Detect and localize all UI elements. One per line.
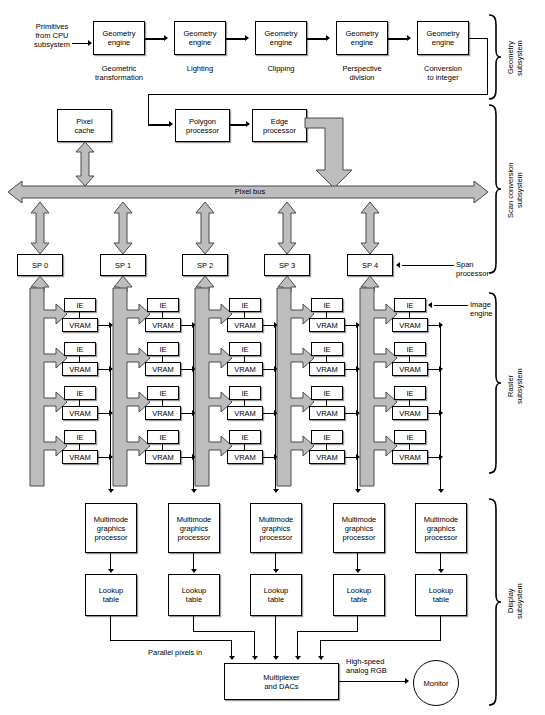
- ie-box-4-2[interactable]: IE: [394, 386, 426, 400]
- ie-vram-link-2-3: [244, 444, 245, 450]
- vram-box-2-3[interactable]: VRAM: [227, 450, 263, 464]
- vram-box-1-1[interactable]: VRAM: [145, 362, 181, 376]
- vram-box-1-0[interactable]: VRAM: [145, 318, 181, 332]
- ie-box-1-3[interactable]: IE: [147, 430, 179, 444]
- lut-route-v-3: [357, 616, 358, 632]
- input-label: Primitivesfrom CPUsubsystem: [16, 22, 88, 49]
- pixel-bus-label: Pixel bus: [200, 187, 300, 196]
- multimode-graphics-processor-box-4[interactable]: Multimodegraphicsprocessor: [415, 503, 467, 553]
- vram-box-2-0[interactable]: VRAM: [227, 318, 263, 332]
- ie-vram-link-2-0: [244, 312, 245, 318]
- ie-box-0-3[interactable]: IE: [64, 430, 96, 444]
- edge-processor-box[interactable]: Edgeprocessor: [252, 109, 307, 142]
- multiplexer-dacs-box[interactable]: Multiplexerand DACs: [224, 663, 339, 700]
- vram-box-4-2[interactable]: VRAM: [392, 406, 428, 420]
- ie-box-3-1[interactable]: IE: [311, 342, 343, 356]
- mgp-to-lut-head-4: [438, 569, 444, 573]
- geometry-engine-box-2[interactable]: Geometryengine: [255, 21, 307, 55]
- ie-box-0-1[interactable]: IE: [64, 342, 96, 356]
- lut-route-h-3: [297, 631, 358, 632]
- ie-box-2-3[interactable]: IE: [229, 430, 261, 444]
- geometry-engine-box-1[interactable]: Geometryengine: [174, 21, 226, 55]
- multimode-graphics-processor-box-0[interactable]: Multimodegraphicsprocessor: [85, 503, 137, 553]
- ie-box-0-0[interactable]: IE: [64, 298, 96, 312]
- span-processor-box-0[interactable]: SP 0: [17, 254, 63, 276]
- vram-box-3-2[interactable]: VRAM: [309, 406, 345, 420]
- ie-box-1-2[interactable]: IE: [147, 386, 179, 400]
- ie-box-3-0[interactable]: IE: [311, 298, 343, 312]
- geometry-engine-box-3[interactable]: Geometryengine: [336, 21, 388, 55]
- raster-collector-head-2: [273, 489, 279, 493]
- vram-box-4-1[interactable]: VRAM: [392, 362, 428, 376]
- lut-route-v-4: [440, 616, 441, 641]
- geometry-engine-box-4[interactable]: Geometryengine: [417, 21, 469, 55]
- vram-box-1-2[interactable]: VRAM: [145, 406, 181, 420]
- vram-box-0-2[interactable]: VRAM: [62, 406, 98, 420]
- raster-collector-head-3: [355, 489, 361, 493]
- ie-box-0-2[interactable]: IE: [64, 386, 96, 400]
- ie-vram-link-3-1: [326, 356, 327, 362]
- ie-vram-link-0-2: [79, 400, 80, 406]
- lut-route-down-1: [254, 631, 255, 658]
- input-arrow-line: [72, 43, 89, 44]
- raster-collector-head-0: [108, 489, 114, 493]
- ie-vram-link-1-0: [162, 312, 163, 318]
- lut-route-v-1: [193, 616, 194, 632]
- vram-box-4-3[interactable]: VRAM: [392, 450, 428, 464]
- vram-box-2-2[interactable]: VRAM: [227, 406, 263, 420]
- multimode-graphics-processor-box-3[interactable]: Multimodegraphicsprocessor: [333, 503, 385, 553]
- ie-vram-link-3-2: [326, 400, 327, 406]
- ie-box-4-3[interactable]: IE: [394, 430, 426, 444]
- bus-to-sp-gray-arrow-1: [113, 202, 133, 254]
- ie-box-3-3[interactable]: IE: [311, 430, 343, 444]
- geometry-link-head-1: [245, 35, 249, 41]
- bus-to-sp-gray-arrow-3: [277, 202, 297, 254]
- lookup-table-box-0[interactable]: Lookuptable: [85, 574, 137, 616]
- vram-box-3-0[interactable]: VRAM: [309, 318, 345, 332]
- ie-box-4-0[interactable]: IE: [394, 298, 426, 312]
- geometry-engine-box-0[interactable]: Geometryengine: [93, 21, 145, 55]
- vram-box-0-0[interactable]: VRAM: [62, 318, 98, 332]
- vram-box-3-1[interactable]: VRAM: [309, 362, 345, 376]
- lookup-table-box-4[interactable]: Lookuptable: [415, 574, 467, 616]
- ie-box-1-1[interactable]: IE: [147, 342, 179, 356]
- geometry-caption-2: Clipping: [245, 64, 317, 73]
- image-engine-callout-head: [428, 302, 432, 308]
- span-processor-box-2[interactable]: SP 2: [182, 254, 228, 276]
- span-processor-box-4[interactable]: SP 4: [347, 254, 393, 276]
- ie-box-3-2[interactable]: IE: [311, 386, 343, 400]
- input-arrow-head: [88, 40, 92, 46]
- vram-box-4-0[interactable]: VRAM: [392, 318, 428, 332]
- pixel-cache-box[interactable]: Pixelcache: [57, 109, 112, 142]
- ie-box-2-2[interactable]: IE: [229, 386, 261, 400]
- monitor-node[interactable]: Monitor: [413, 660, 459, 706]
- mux-to-monitor-head: [405, 678, 409, 684]
- ie-box-2-0[interactable]: IE: [229, 298, 261, 312]
- ie-box-2-1[interactable]: IE: [229, 342, 261, 356]
- feedback-line-into-polygon: [148, 124, 170, 126]
- lut-route-head-2: [273, 656, 279, 660]
- lut-route-head-4: [318, 656, 324, 660]
- vram-box-1-3[interactable]: VRAM: [145, 450, 181, 464]
- bus-to-sp-gray-arrow-2: [195, 202, 215, 254]
- span-processor-box-1[interactable]: SP 1: [100, 254, 146, 276]
- multimode-graphics-processor-box-2[interactable]: Multimodegraphicsprocessor: [250, 503, 302, 553]
- lookup-table-box-1[interactable]: Lookuptable: [168, 574, 220, 616]
- mux-to-monitor-line: [339, 681, 406, 682]
- vram-box-0-1[interactable]: VRAM: [62, 362, 98, 376]
- ie-vram-link-2-2: [244, 400, 245, 406]
- lookup-table-box-3[interactable]: Lookuptable: [333, 574, 385, 616]
- vram-box-0-3[interactable]: VRAM: [62, 450, 98, 464]
- span-processor-box-3[interactable]: SP 3: [264, 254, 310, 276]
- lut-route-head-3: [295, 656, 301, 660]
- lookup-table-box-2[interactable]: Lookuptable: [250, 574, 302, 616]
- ie-box-4-1[interactable]: IE: [394, 342, 426, 356]
- polygon-processor-box[interactable]: Polygonprocessor: [175, 109, 230, 142]
- vram-box-2-1[interactable]: VRAM: [227, 362, 263, 376]
- vram-box-3-3[interactable]: VRAM: [309, 450, 345, 464]
- multimode-graphics-processor-box-1[interactable]: Multimodegraphicsprocessor: [168, 503, 220, 553]
- geometry-link-2: [307, 38, 327, 40]
- span-processor-callout-label: Spanprocessor: [456, 260, 516, 278]
- geometry-link-1: [226, 38, 246, 40]
- ie-box-1-0[interactable]: IE: [147, 298, 179, 312]
